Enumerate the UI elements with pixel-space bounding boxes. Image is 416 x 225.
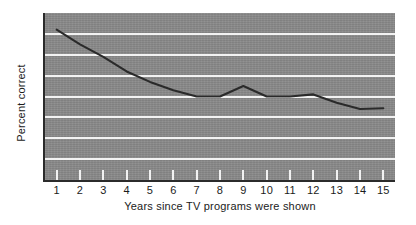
y-axis-title: Percent correct (15, 38, 27, 168)
data-series-line (45, 13, 395, 180)
x-tick-label-10: 10 (256, 184, 278, 196)
x-tick-label-4: 4 (116, 184, 138, 196)
chart-container: 4050607080 123456789101112131415 Percent… (0, 0, 416, 225)
x-tick-label-3: 3 (92, 184, 114, 196)
x-tick-label-6: 6 (162, 184, 184, 196)
x-tick-label-9: 9 (232, 184, 254, 196)
x-tick-label-15: 15 (372, 184, 394, 196)
x-tick-label-1: 1 (46, 184, 68, 196)
x-tick-label-11: 11 (279, 184, 301, 196)
plot-area (45, 13, 395, 180)
x-tick-label-8: 8 (209, 184, 231, 196)
y-axis-line (43, 13, 45, 182)
x-tick-label-14: 14 (349, 184, 371, 196)
x-axis-line (43, 180, 395, 182)
x-tick-label-2: 2 (69, 184, 91, 196)
x-tick-label-12: 12 (302, 184, 324, 196)
x-tick-label-5: 5 (139, 184, 161, 196)
x-axis-title: Years since TV programs were shown (45, 200, 395, 212)
x-tick-label-7: 7 (186, 184, 208, 196)
x-tick-label-13: 13 (326, 184, 348, 196)
